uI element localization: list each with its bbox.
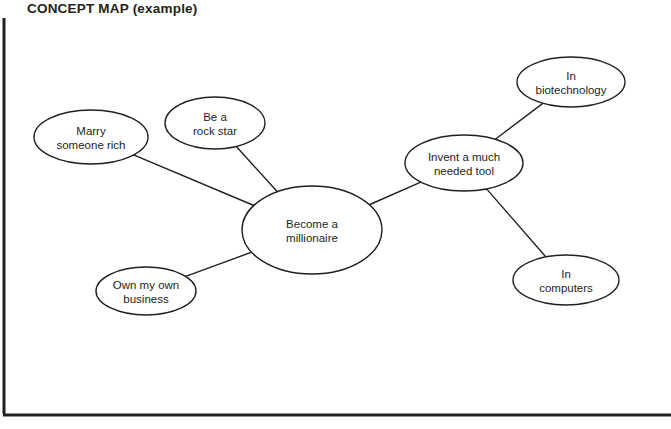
node-ellipse-biotech[interactable] bbox=[517, 57, 625, 107]
node-ellipse-invent[interactable] bbox=[405, 135, 523, 191]
node-ellipse-business[interactable] bbox=[96, 267, 196, 315]
node-ellipse-marry[interactable] bbox=[34, 110, 148, 164]
node-ellipse-millionaire[interactable] bbox=[242, 186, 382, 274]
edge-business-to-millionaire bbox=[186, 252, 252, 276]
edge-invent-to-biotech bbox=[495, 103, 542, 139]
node-ellipse-computers[interactable] bbox=[513, 255, 619, 305]
edge-millionaire-to-invent bbox=[369, 182, 420, 205]
node-ellipse-rockstar[interactable] bbox=[165, 97, 265, 149]
edge-rockstar-to-millionaire bbox=[236, 147, 277, 192]
edge-invent-to-computers bbox=[487, 189, 546, 257]
edge-marry-to-millionaire bbox=[134, 155, 254, 206]
concept-map-page: CONCEPT MAP (example) Marry someone rich… bbox=[0, 0, 671, 429]
nodes-group bbox=[34, 57, 625, 315]
concept-map-canvas bbox=[0, 0, 671, 429]
